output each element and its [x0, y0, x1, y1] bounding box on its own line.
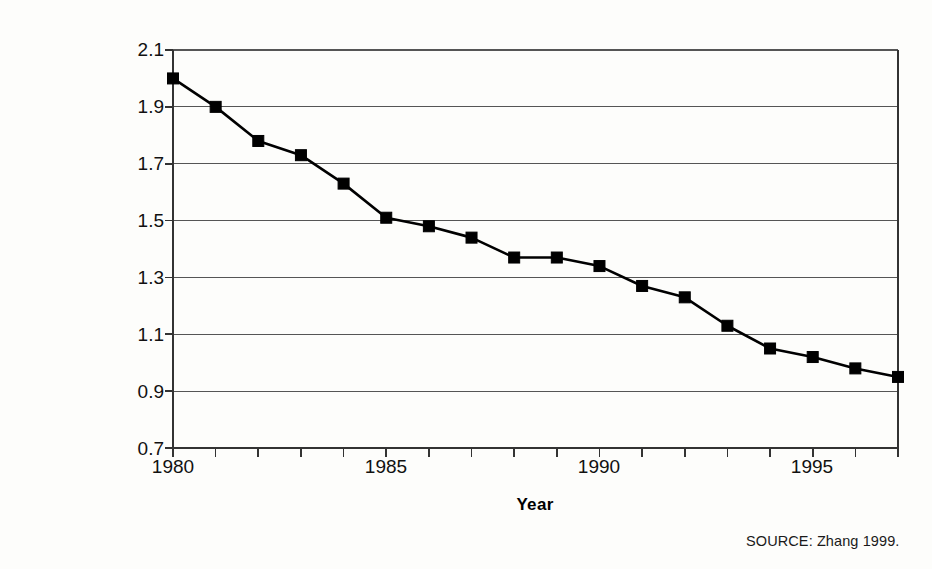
data-point-1986	[423, 221, 434, 232]
data-point-1988	[509, 252, 520, 263]
data-point-1984	[338, 178, 349, 189]
data-point-1993	[722, 320, 733, 331]
data-line-energy-intensity	[173, 78, 898, 377]
data-point-1994	[765, 343, 776, 354]
data-point-1996	[850, 363, 861, 374]
data-point-1985	[381, 212, 392, 223]
data-point-1997	[893, 371, 904, 382]
chart-figure: Energy Intensity (tons of coal equivalen…	[0, 0, 932, 569]
gridlines-group	[173, 50, 898, 448]
axis-lines-group	[173, 50, 898, 448]
plot-area	[0, 0, 932, 569]
data-point-1995	[807, 352, 818, 363]
data-point-1992	[679, 292, 690, 303]
y-tick-marks-group	[165, 50, 173, 448]
data-point-1991	[637, 280, 648, 291]
data-point-1983	[295, 150, 306, 161]
data-point-1987	[466, 232, 477, 243]
data-point-1982	[253, 135, 264, 146]
x-tick-marks-group	[173, 448, 898, 457]
data-point-1980	[168, 73, 179, 84]
data-point-1989	[551, 252, 562, 263]
data-point-1990	[594, 261, 605, 272]
data-point-1981	[210, 101, 221, 112]
data-markers-group	[168, 73, 904, 383]
